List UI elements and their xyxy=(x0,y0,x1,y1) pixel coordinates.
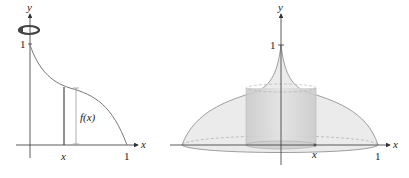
x-marker-label: x xyxy=(311,148,317,160)
x-marker-dot xyxy=(314,144,317,147)
x-axis-label: x xyxy=(392,138,398,150)
curve-f xyxy=(30,45,127,145)
rotation-arrow-icon xyxy=(19,26,39,34)
y-axis-label: y xyxy=(26,1,32,13)
y-axis-label: y xyxy=(277,1,283,13)
x-marker-label: x xyxy=(60,150,66,162)
y-tick-label: 1 xyxy=(20,38,26,50)
height-label: f(x) xyxy=(80,111,96,124)
x-tick-label: 1 xyxy=(375,150,381,162)
x-axis-label: x xyxy=(140,138,146,150)
left-plot: y x 1 1 x f(x) xyxy=(16,1,146,162)
figure: y x 1 1 x f(x) xyxy=(0,0,409,178)
x-tick-label: 1 xyxy=(124,150,130,162)
right-plot: y x 1 1 x xyxy=(170,1,398,165)
y-tick-label: 1 xyxy=(270,39,276,51)
